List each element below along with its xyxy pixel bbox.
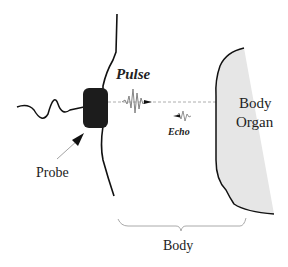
pulse-label: Pulse <box>116 66 151 82</box>
echo-label: Echo <box>167 126 190 137</box>
pulse-wave-icon <box>122 89 145 113</box>
transducer-probe-icon <box>83 88 108 128</box>
organ-label-line2: Organ <box>236 114 274 130</box>
probe-cable <box>17 100 84 118</box>
echo-direction-arrow-icon <box>173 115 180 118</box>
pointer-arrow-line <box>57 140 78 159</box>
body-label: Body <box>163 238 193 253</box>
body-brace <box>118 218 246 231</box>
probe-label: Probe <box>36 165 69 180</box>
organ-label-line1: Body <box>239 95 272 111</box>
pulse-direction-arrow-icon <box>144 100 152 104</box>
ultrasound-diagram: Pulse Echo Body Organ Probe Body <box>0 0 288 267</box>
